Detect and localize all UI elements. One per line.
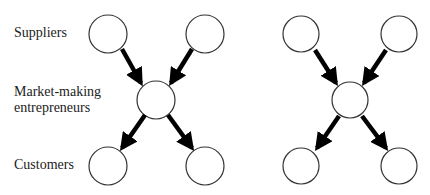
customer-node <box>283 148 319 184</box>
customer-node <box>89 147 127 185</box>
arrow-icon <box>122 115 145 148</box>
customer-node <box>381 148 417 184</box>
arrow-icon <box>171 49 192 83</box>
arrow-icon <box>122 49 141 83</box>
entrepreneur-node <box>137 81 175 119</box>
customer-node <box>186 147 224 185</box>
arrow-icon <box>364 50 386 83</box>
right-diagram <box>283 16 417 184</box>
supplier-node <box>283 16 319 52</box>
arrow-icon <box>315 50 336 83</box>
supplier-node <box>89 15 127 53</box>
supplier-node <box>381 16 417 52</box>
entrepreneur-node <box>332 82 368 118</box>
arrow-icon <box>168 115 192 148</box>
arrow-icon <box>362 116 386 148</box>
left-diagram <box>89 15 224 185</box>
network-diagrams <box>0 0 430 195</box>
supplier-node <box>186 15 224 53</box>
arrow-icon <box>317 116 339 148</box>
